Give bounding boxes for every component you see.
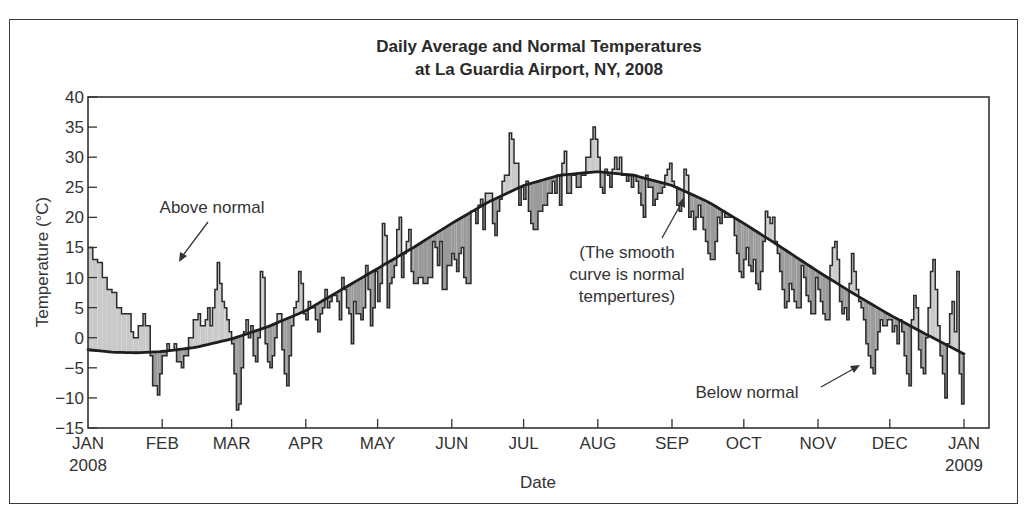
above-normal-fill — [93, 259, 98, 350]
annotation-note-line2: curve is normal — [569, 265, 684, 284]
x-tick-year: 2008 — [69, 456, 107, 475]
above-normal-fill — [954, 332, 956, 351]
y-tick-label: 0 — [75, 329, 84, 348]
above-normal-fill — [122, 314, 127, 353]
below-normal-arrow-line — [821, 368, 855, 387]
chart-subtitle: at La Guardia Airport, NY, 2008 — [415, 60, 663, 79]
annotation-note-line1: (The smooth — [579, 243, 674, 262]
x-tick-label: OCT — [726, 434, 762, 453]
below-normal-fill — [746, 225, 748, 248]
x-tick-label: JAN — [72, 434, 104, 453]
x-tick-label: JUN — [435, 434, 468, 453]
annotation-note-line3: tempertures) — [579, 287, 675, 306]
x-tick-label: AUG — [579, 434, 616, 453]
temperature-chart: Daily Average and Normal Temperatures at… — [0, 0, 1025, 519]
y-tick-label: 10 — [65, 269, 84, 288]
above-normal-fill — [107, 290, 112, 353]
x-tick-label: NOV — [800, 434, 838, 453]
y-tick-label: 5 — [75, 299, 84, 318]
x-tick-label: DEC — [872, 434, 908, 453]
y-tick-label: −10 — [55, 389, 84, 408]
y-tick-label: −5 — [65, 359, 84, 378]
annotation-below-normal: Below normal — [696, 383, 799, 402]
x-axis-title: Date — [520, 473, 556, 492]
x-tick-label: SEP — [655, 434, 689, 453]
x-tick-label: MAR — [213, 434, 251, 453]
below-normal-fill — [753, 229, 755, 259]
below-normal-fill — [461, 216, 463, 247]
x-tick-label: MAY — [360, 434, 396, 453]
above-normal-fill — [133, 338, 138, 353]
below-normal-fill — [844, 288, 846, 308]
x-tick-label: APR — [288, 434, 323, 453]
above-normal-fill — [210, 326, 212, 344]
y-tick-label: 30 — [65, 148, 84, 167]
below-normal-fill — [691, 194, 693, 211]
x-tick-label: JUL — [508, 434, 538, 453]
annotation-above-normal: Above normal — [160, 198, 265, 217]
below-normal-fill — [789, 253, 791, 284]
above-normal-fill — [200, 326, 205, 347]
y-axis-title: Temperature (°C) — [33, 197, 52, 328]
below-normal-arrowhead-icon — [850, 365, 860, 373]
y-tick-label: 40 — [65, 88, 84, 107]
above-normal-arrowhead-icon — [179, 252, 187, 262]
x-tick-label: FEB — [146, 434, 179, 453]
below-normal-fill — [354, 281, 356, 301]
chart-title: Daily Average and Normal Temperatures — [376, 37, 701, 56]
y-tick-label: 35 — [65, 118, 84, 137]
x-tick-label: JAN — [948, 434, 980, 453]
y-tick-label: 25 — [65, 178, 84, 197]
x-tick-year: 2009 — [945, 456, 983, 475]
below-normal-fill — [418, 241, 423, 277]
below-normal-fill — [423, 238, 428, 283]
above-normal-arrow-line — [181, 222, 208, 258]
below-normal-fill — [452, 222, 454, 253]
y-tick-label: 20 — [65, 208, 84, 227]
note-arrow-line — [662, 202, 682, 238]
y-tick-label: 15 — [65, 238, 84, 257]
